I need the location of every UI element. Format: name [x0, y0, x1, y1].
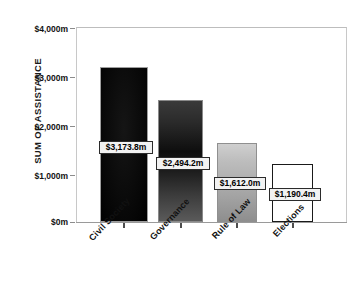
y-tick-label-0: $0m — [16, 217, 68, 227]
y-tick-label-3000: $3,000m — [16, 73, 68, 83]
y-tick-mark-0 — [70, 222, 75, 223]
y-tick-mark-1000 — [70, 175, 75, 176]
y-tick-mark-3000 — [70, 77, 75, 78]
x-axis-baseline — [76, 222, 347, 223]
y-axis-ticks: $4,000m $3,000m $2,000m $1,000m $0m — [0, 0, 68, 284]
x-tick-mark-rule-of-law — [236, 223, 238, 228]
y-tick-label-1000: $1,000m — [16, 171, 68, 181]
x-tick-mark-governance — [180, 223, 182, 228]
y-tick-mark-4000 — [70, 28, 75, 29]
y-tick-label-4000: $4,000m — [16, 24, 68, 34]
bar-chart: SUM OF ASSISTANCE $4,000m $3,000m $2,000… — [0, 0, 361, 284]
value-label-governance: $2,494.2m — [156, 157, 210, 170]
value-label-rule-of-law: $1,612.0m — [214, 177, 266, 190]
y-tick-mark-2000 — [70, 126, 75, 127]
value-label-civil-society: $3,173.8m — [99, 141, 153, 154]
x-tick-mark-civil-society — [123, 223, 125, 228]
value-label-elections: $1,190.4m — [269, 188, 321, 201]
y-tick-label-2000: $2,000m — [16, 122, 68, 132]
